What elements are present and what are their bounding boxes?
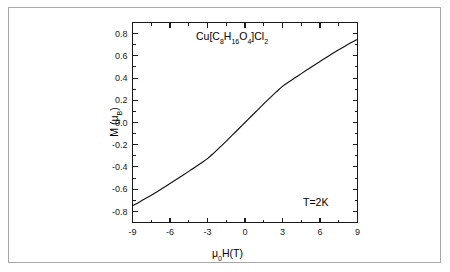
- x-tick-label: -3: [203, 227, 211, 237]
- y-axis-title-prefix: M (μ: [108, 115, 120, 136]
- compound-formula-annotation: Cu[C8H16O4]Cl2: [196, 26, 268, 45]
- x-axis-title-suffix: H(T): [222, 247, 243, 259]
- magnetization-curve: [133, 39, 358, 206]
- x-axis-title: μ0H(T): [212, 243, 243, 262]
- data-series-curve: [133, 39, 358, 206]
- y-tick-label: -0.8: [112, 207, 128, 217]
- x-tick-label: -6: [166, 227, 174, 237]
- x-tick-label: -9: [128, 227, 136, 237]
- y-axis-title-subscript: B: [117, 111, 124, 116]
- temperature-annotation: T=2K: [303, 192, 328, 210]
- compound-formula-suffix: ]Cl: [251, 30, 264, 42]
- temperature-label: T=2K: [303, 196, 328, 208]
- x-tick-label: 3: [280, 227, 285, 237]
- figure-root: -9-6-30369-0.8-0.6-0.4-0.20.00.20.40.60.…: [0, 0, 450, 272]
- y-axis-title: M (μB): [84, 87, 144, 157]
- y-tick-label: 0.6: [115, 51, 128, 61]
- compound-formula-prefix: Cu[C: [196, 30, 220, 42]
- y-tick-label: 0.8: [115, 29, 128, 39]
- y-tick-label: -0.4: [112, 162, 128, 172]
- x-tick-label: 9: [355, 227, 360, 237]
- y-tick-label: -0.6: [112, 184, 128, 194]
- y-axis-title-suffix: ): [108, 107, 120, 111]
- y-tick-label: 0.4: [115, 73, 128, 83]
- compound-formula-sub-cl: 2: [264, 38, 268, 45]
- x-tick-label: 0: [242, 227, 247, 237]
- x-tick-label: 6: [317, 227, 322, 237]
